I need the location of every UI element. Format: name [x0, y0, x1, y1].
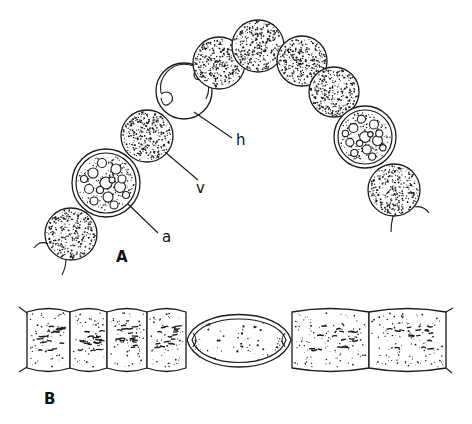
leader-line-h — [194, 112, 232, 138]
filament-b — [19, 307, 453, 373]
cell-vegetative — [368, 164, 420, 216]
label-akinete-a: a — [162, 230, 171, 245]
figure-canvas — [0, 0, 472, 424]
cell-vegetative — [292, 309, 369, 372]
cell-vegetative — [27, 309, 70, 372]
panel-label-b: B — [44, 392, 55, 407]
label-heterocyst-h: h — [236, 133, 246, 148]
cell-vegetative — [45, 208, 97, 260]
panel-label-a: A — [116, 250, 128, 265]
cell-vegetative — [121, 110, 173, 162]
sheath-thread-right — [415, 207, 429, 213]
cell-akinete — [334, 106, 396, 168]
label-vegetative-v: v — [196, 181, 205, 196]
leader-line-v — [165, 152, 198, 180]
cell-vegetative — [70, 309, 107, 372]
sheath-thread-left — [34, 243, 48, 248]
cell-vegetative — [107, 309, 147, 372]
cell-vegetative — [232, 20, 284, 72]
cell-vegetative — [369, 309, 446, 372]
leader-line-a — [128, 204, 158, 233]
cell-heterocyst — [187, 315, 291, 368]
filament-a — [34, 20, 429, 275]
cell-akinete — [72, 149, 140, 217]
cell-vegetative — [147, 309, 186, 372]
